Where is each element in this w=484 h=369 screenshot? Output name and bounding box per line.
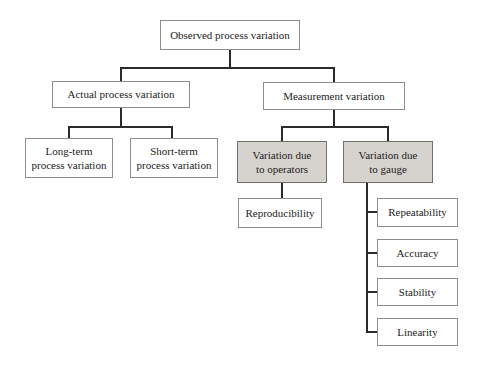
node-reproducibility: Reproducibility	[238, 198, 322, 228]
connector-actual-horizontal	[68, 126, 173, 128]
node-accuracy-label: Accuracy	[395, 246, 439, 260]
node-long-term-process-variation: Long-term process variation	[25, 138, 113, 178]
node-actual-process-variation: Actual process variation	[52, 81, 190, 108]
node-gauge-label: Variation due to gauge	[358, 148, 419, 177]
node-short-term-process-variation: Short-term process variation	[130, 138, 218, 178]
node-long-term-label: Long-term process variation	[31, 144, 108, 173]
connector-actual-top	[120, 67, 122, 82]
connector-gauge-top	[387, 126, 389, 142]
node-repeatability-label: Repeatability	[387, 205, 448, 219]
node-linearity-label: Linearity	[396, 325, 438, 339]
node-operators-label: Variation due to operators	[252, 148, 313, 177]
node-variation-due-to-operators: Variation due to operators	[237, 141, 327, 183]
node-stability: Stability	[377, 278, 458, 306]
node-measurement-label: Measurement variation	[282, 89, 386, 103]
node-variation-due-to-gauge: Variation due to gauge	[343, 141, 433, 183]
variation-tree-diagram: Observed process variation Actual proces…	[0, 0, 484, 369]
node-linearity: Linearity	[377, 318, 458, 346]
connector-level1-horizontal	[120, 67, 335, 69]
node-observed-label: Observed process variation	[169, 28, 291, 42]
node-stability-label: Stability	[398, 285, 437, 299]
node-reproducibility-label: Reproducibility	[244, 206, 315, 220]
connector-actual-drop	[120, 108, 122, 128]
connector-operators-drop	[281, 183, 283, 199]
node-short-term-label: Short-term process variation	[136, 144, 213, 173]
connector-gauge-spine	[366, 183, 368, 333]
connector-measurement-horizontal	[281, 126, 389, 128]
node-accuracy: Accuracy	[377, 239, 458, 267]
node-repeatability: Repeatability	[377, 198, 458, 227]
node-observed-process-variation: Observed process variation	[160, 20, 300, 50]
node-measurement-variation: Measurement variation	[263, 82, 405, 110]
connector-measurement-top	[333, 67, 335, 83]
connector-operators-top	[281, 126, 283, 142]
node-actual-label: Actual process variation	[67, 87, 176, 101]
